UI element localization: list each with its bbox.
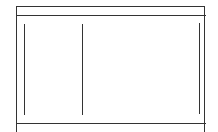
footer-divider xyxy=(16,123,206,124)
left-column-line xyxy=(24,24,25,115)
outer-frame xyxy=(16,6,205,132)
column-divider-line xyxy=(82,24,83,115)
wireframe-canvas xyxy=(0,0,218,132)
right-column-line xyxy=(199,23,200,114)
header-divider xyxy=(16,15,206,16)
